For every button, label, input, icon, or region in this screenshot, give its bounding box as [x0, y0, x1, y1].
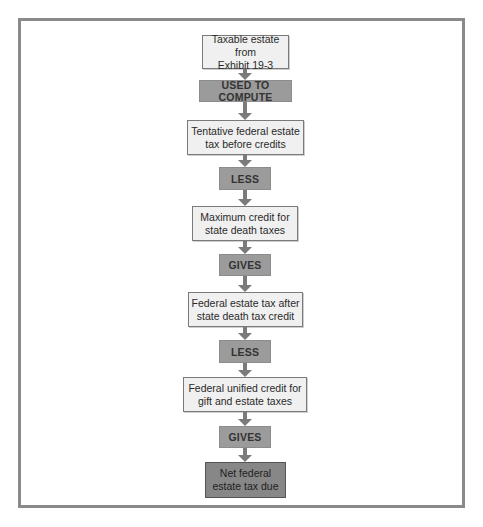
- arrow-down-icon: [238, 448, 252, 462]
- net-estate-tax-due-box: Net federal estate tax due: [205, 462, 286, 498]
- node-line: estate tax due: [213, 480, 279, 493]
- node-line: state death tax credit: [192, 310, 300, 323]
- node-line: Taxable estate from: [203, 33, 288, 59]
- node-line: gift and estate taxes: [188, 395, 301, 408]
- tentative-tax-box: Tentative federal estate tax before cred…: [187, 120, 304, 155]
- node-line: tax before credits: [191, 138, 300, 151]
- max-state-credit-box: Maximum credit for state death taxes: [192, 206, 298, 241]
- node-line: Federal estate tax after: [192, 297, 300, 310]
- unified-credit-box: Federal unified credit for gift and esta…: [183, 377, 307, 412]
- arrow-down-icon: [238, 412, 252, 426]
- arrow-down-icon: [238, 363, 252, 377]
- arrow-down-icon: [238, 327, 252, 340]
- arrow-down-icon: [238, 102, 252, 120]
- node-line: state death taxes: [200, 224, 289, 237]
- arrow-down-icon: [238, 241, 252, 254]
- node-line: Federal unified credit for: [188, 382, 301, 395]
- node-line: Tentative federal estate: [191, 125, 300, 138]
- operator-used-to-compute: USED TO COMPUTE: [199, 80, 292, 102]
- node-line: Maximum credit for: [200, 211, 289, 224]
- operator-gives: GIVES: [219, 254, 271, 276]
- arrow-down-icon: [238, 190, 252, 206]
- arrow-down-icon: [238, 155, 252, 167]
- tax-after-state-credit-box: Federal estate tax after state death tax…: [188, 292, 303, 327]
- taxable-estate-box: Taxable estate from Exhibit 19-3: [202, 35, 289, 69]
- arrow-down-icon: [238, 276, 252, 292]
- node-line: Net federal: [213, 467, 279, 480]
- operator-gives: GIVES: [219, 426, 271, 448]
- operator-less: LESS: [219, 167, 271, 190]
- operator-less: LESS: [219, 340, 271, 363]
